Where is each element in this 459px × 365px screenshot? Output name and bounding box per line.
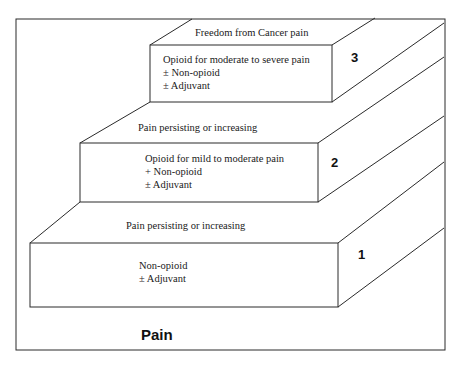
step-1-line-1: Non-opioid: [139, 260, 188, 271]
step-1-transition-label: Pain persisting or increasing: [126, 220, 246, 231]
step-2-line-3: ± Adjuvant: [145, 179, 192, 190]
step-3-top-edge: [150, 19, 192, 45]
step-2: Pain persisting or increasing Opioid for…: [80, 102, 338, 202]
top-label: Freedom from Cancer pain: [195, 27, 309, 38]
step-3-number: 3: [351, 50, 358, 65]
step-1: Pain persisting or increasing Non-opioid…: [30, 202, 365, 307]
step-1-top-edge: [30, 202, 80, 243]
bottom-label: Pain: [141, 326, 173, 343]
step-3-line-2: ± Non-opioid: [163, 67, 221, 78]
step-1-line-2: ± Adjuvant: [139, 273, 186, 284]
step-3-line-1: Opioid for moderate to severe pain: [163, 54, 310, 65]
step-2-transition-label: Pain persisting or increasing: [138, 122, 258, 133]
step-2-line-2: + Non-opioid: [145, 166, 203, 177]
step-1-number: 1: [358, 247, 365, 262]
step-3-line-3: ± Adjuvant: [163, 80, 210, 91]
step-3: Freedom from Cancer pain Opioid for mode…: [150, 19, 358, 102]
analgesic-ladder-diagram: Freedom from Cancer pain Opioid for mode…: [0, 0, 459, 365]
step-2-line-1: Opioid for mild to moderate pain: [145, 153, 285, 164]
step-2-number: 2: [331, 155, 338, 170]
